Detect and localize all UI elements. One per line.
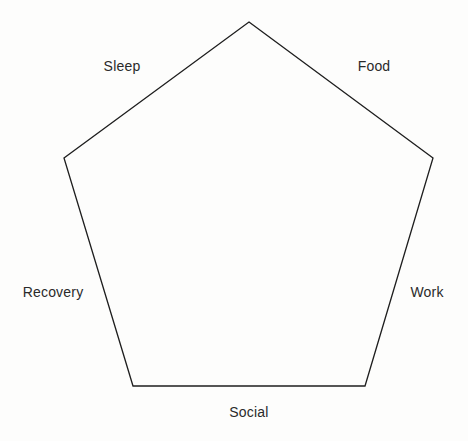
vertex-label-sleep: Sleep [104, 59, 141, 73]
pentagon-shape [0, 0, 468, 441]
pentagon-diagram: Sleep Food Work Social Recovery [0, 0, 468, 441]
vertex-label-work: Work [410, 285, 443, 299]
diagram-background [0, 0, 468, 441]
vertex-label-recovery: Recovery [23, 285, 84, 299]
vertex-label-social: Social [229, 405, 268, 419]
vertex-label-food: Food [358, 59, 391, 73]
